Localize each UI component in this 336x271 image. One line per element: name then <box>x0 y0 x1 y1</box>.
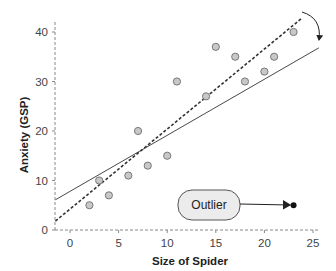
scatter-chart: 010203040 0510152025 Anxiety (GSP) Size … <box>0 0 336 271</box>
x-tick-label: 20 <box>258 237 271 249</box>
fit-with-outlier-line <box>55 48 318 200</box>
data-point <box>125 172 132 179</box>
x-axis-label: Size of Spider <box>152 255 229 267</box>
data-point <box>202 93 209 100</box>
data-point <box>144 162 151 169</box>
y-tick-label: 10 <box>35 175 48 187</box>
data-point <box>86 202 93 209</box>
x-tick-label: 25 <box>307 237 320 249</box>
x-tick-label: 15 <box>209 237 222 249</box>
y-tick-label: 30 <box>35 76 48 88</box>
data-point <box>241 78 248 85</box>
data-point <box>164 152 171 159</box>
y-tick-label: 40 <box>35 26 48 38</box>
x-tick-label: 0 <box>67 237 73 249</box>
y-axis: 010203040 <box>35 22 55 236</box>
data-point <box>290 28 297 35</box>
x-tick-label: 5 <box>115 237 121 249</box>
y-axis-label: Anxiety (GSP) <box>18 96 30 173</box>
data-point <box>134 127 141 134</box>
outlier-point <box>291 202 297 208</box>
data-point <box>173 78 180 85</box>
outlier-arrow-icon <box>240 204 290 205</box>
data-point <box>96 177 103 184</box>
outlier-label: Outlier <box>191 198 226 212</box>
y-tick-label: 0 <box>42 224 48 236</box>
data-point <box>271 53 278 60</box>
x-axis: 0510152025 <box>55 230 320 249</box>
curved-arrow-icon <box>302 12 319 40</box>
x-tick-label: 10 <box>161 237 174 249</box>
data-point <box>105 192 112 199</box>
data-point <box>212 43 219 50</box>
fit-without-outlier-line <box>55 19 301 221</box>
data-point <box>232 53 239 60</box>
data-point <box>261 68 268 75</box>
data-points <box>86 28 297 208</box>
y-tick-label: 20 <box>35 125 48 137</box>
outlier-annotation: Outlier <box>178 190 290 220</box>
